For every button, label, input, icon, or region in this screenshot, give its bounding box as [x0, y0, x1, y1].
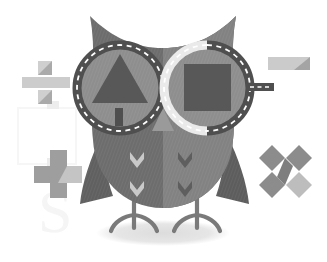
minus-symbol — [268, 57, 310, 70]
divide-symbol — [22, 61, 70, 104]
left-eye[interactable] — [77, 45, 163, 131]
divide-bar — [22, 77, 70, 88]
right-eye[interactable] — [164, 45, 274, 131]
illustration-canvas: Owl with road-ring spectacles illustrati… — [0, 0, 327, 262]
square-sign — [184, 64, 231, 111]
multiply-arm-bottom-right — [286, 172, 312, 198]
multiply-symbol — [259, 145, 312, 198]
watermark-frame — [18, 108, 76, 164]
sign-post — [115, 108, 123, 126]
owl-illustration-svg: S — [0, 0, 327, 262]
multiply-arm-top-left — [259, 145, 285, 171]
road-stub — [248, 83, 274, 91]
